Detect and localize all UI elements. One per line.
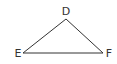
vertex-label-f: F bbox=[106, 47, 112, 60]
vertex-label-d: D bbox=[62, 5, 70, 18]
vertex-label-e: E bbox=[15, 47, 22, 60]
triangle-def bbox=[23, 19, 103, 53]
triangle-diagram: D E F bbox=[0, 0, 117, 64]
